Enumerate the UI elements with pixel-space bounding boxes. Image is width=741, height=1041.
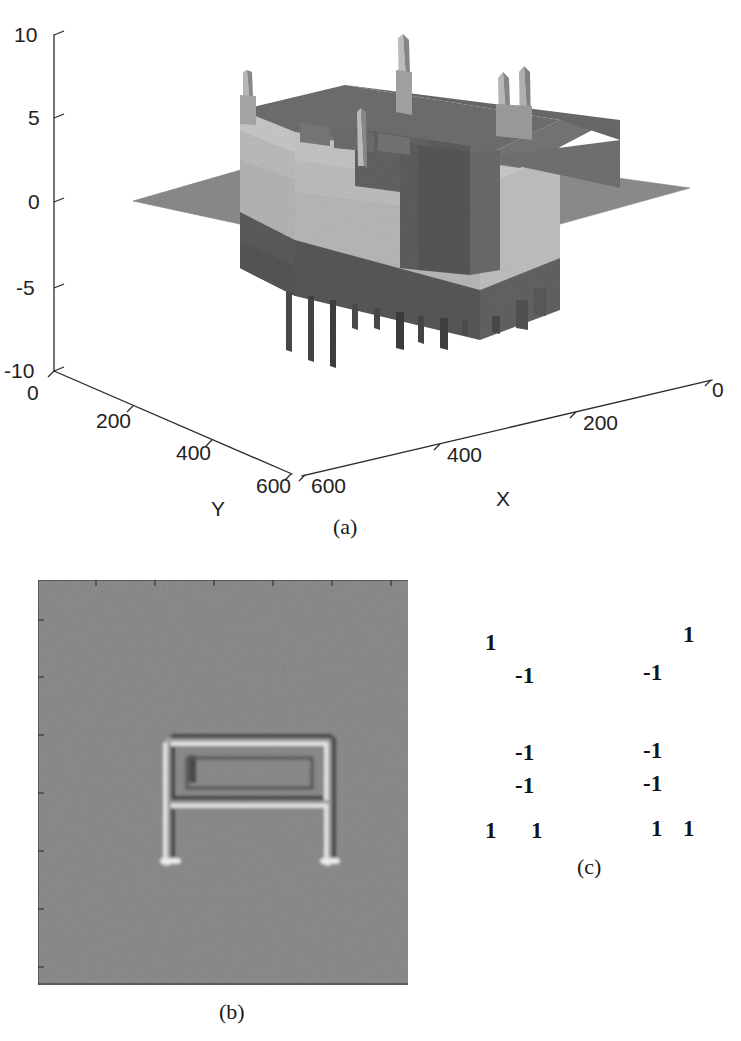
panel-a-surface-plot: 10 5 0 -5 -10 0 200 400 600 600 400 200 … — [0, 0, 741, 545]
z-tick-neg10: -10 — [4, 359, 34, 383]
matrix-value: -1 — [515, 740, 534, 766]
matrix-value: -1 — [643, 771, 662, 797]
matrix-value: -1 — [515, 663, 534, 689]
y-tick-0: 0 — [27, 381, 39, 405]
z-tick-10: 10 — [14, 23, 37, 47]
figure-root: 10 5 0 -5 -10 0 200 400 600 600 400 200 … — [0, 0, 741, 1041]
x-tick-0: 0 — [712, 378, 724, 402]
matrix-value: 1 — [531, 818, 543, 844]
matrix-value: 1 — [651, 816, 663, 842]
y-tick-400: 400 — [176, 441, 211, 465]
y-tick-600: 600 — [256, 474, 291, 498]
panel-b-filtered-image — [38, 580, 408, 985]
panel-a-caption: (a) — [333, 514, 357, 540]
matrix-value: -1 — [643, 660, 662, 686]
panel-b-caption: (b) — [219, 999, 245, 1025]
x-axis-line — [302, 380, 712, 476]
matrix-value: -1 — [643, 738, 662, 764]
z-tick-neg5: -5 — [16, 276, 35, 300]
panel-c-caption: (c) — [577, 854, 601, 880]
matrix-value: 1 — [485, 818, 497, 844]
x-tick-400: 400 — [447, 443, 482, 467]
matrix-value: -1 — [515, 773, 534, 799]
matrix-value: 1 — [683, 622, 695, 648]
surface-plot-canvas — [0, 0, 741, 545]
y-axis-label: Y — [211, 497, 225, 521]
x-axis-label: X — [496, 487, 510, 511]
x-tick-600: 600 — [311, 474, 346, 498]
x-tick-200: 200 — [583, 411, 618, 435]
y-axis-line — [54, 371, 292, 474]
matrix-value: 1 — [683, 816, 695, 842]
matrix-value: 1 — [485, 630, 497, 656]
panel-b-canvas — [38, 580, 408, 985]
y-tick-200: 200 — [96, 409, 131, 433]
z-tick-5: 5 — [28, 106, 40, 130]
z-tick-0: 0 — [28, 190, 40, 214]
